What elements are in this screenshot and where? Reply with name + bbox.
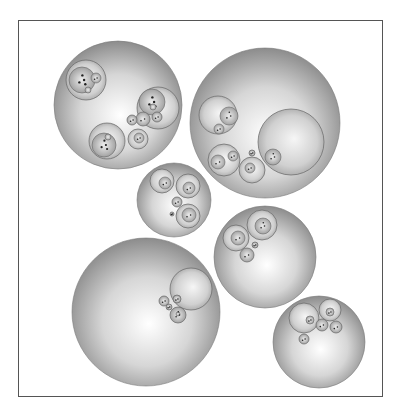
leaf-node <box>178 311 180 313</box>
leaf-node <box>175 203 177 205</box>
subcluster-circle <box>172 197 182 207</box>
leaf-node <box>219 128 221 130</box>
leaf-node <box>310 319 312 321</box>
subcluster <box>289 303 319 333</box>
leaf-node <box>167 307 169 309</box>
subcluster <box>152 112 162 122</box>
node-circle <box>228 151 238 161</box>
leaf-node <box>101 146 103 148</box>
subcluster <box>330 321 342 333</box>
subcluster <box>258 109 324 175</box>
leaf-node <box>230 115 232 117</box>
node-circle <box>265 149 281 165</box>
leaf-node <box>81 74 83 76</box>
leaf-node <box>330 311 332 313</box>
leaf-node <box>229 112 231 114</box>
leaf-node <box>248 254 250 256</box>
leaf-node <box>139 137 141 139</box>
leaf-node <box>217 130 219 132</box>
leaf-node <box>177 201 179 203</box>
subcluster-circle <box>316 319 328 331</box>
leaf-node <box>239 237 241 239</box>
node-circle <box>183 182 195 194</box>
cluster-middle-right <box>214 206 316 308</box>
node-circle <box>182 208 196 222</box>
cluster-top-left <box>54 41 182 169</box>
node-circle <box>214 124 224 134</box>
leaf-node <box>235 239 237 241</box>
leaf-node <box>162 302 164 304</box>
leaf-node <box>105 144 107 146</box>
leaf-node <box>175 299 177 301</box>
leaf-node <box>190 187 192 189</box>
leaf-node <box>169 306 171 308</box>
leaf-node <box>175 316 177 318</box>
subcluster <box>239 157 265 183</box>
leaf-node <box>94 79 96 81</box>
subcluster <box>170 268 212 310</box>
leaf-node <box>250 167 252 169</box>
leaf-node <box>179 314 181 316</box>
leaf-node <box>302 340 304 342</box>
cluster-bottom-right <box>273 296 365 388</box>
node-circle <box>150 104 156 110</box>
subcluster-circle <box>330 321 342 333</box>
leaf-node <box>233 155 235 157</box>
subcluster <box>299 334 309 344</box>
subcluster <box>170 212 174 216</box>
leaf-node <box>219 161 221 163</box>
subcluster <box>223 225 249 251</box>
leaf-node <box>151 96 153 98</box>
leaf-node <box>96 77 98 79</box>
leaf-node <box>273 153 275 155</box>
node-circle <box>255 218 271 234</box>
leaf-node <box>304 338 306 340</box>
subcluster-circle <box>173 295 181 303</box>
leaf-node <box>166 182 168 184</box>
leaf-node <box>323 324 325 326</box>
leaf-node <box>163 184 165 186</box>
subcluster <box>247 210 277 240</box>
subcluster-circle <box>258 109 324 175</box>
leaf-node <box>252 152 254 154</box>
leaf-node <box>137 139 139 141</box>
leaf-node <box>244 256 246 258</box>
subcluster-circle <box>127 115 137 125</box>
leaf-node <box>186 216 188 218</box>
subcluster <box>316 319 328 331</box>
subcluster-circle <box>299 334 309 344</box>
node-circle <box>231 231 245 245</box>
leaf-node <box>308 320 310 322</box>
cluster-top-right <box>190 48 340 198</box>
subcluster-circle <box>289 303 319 333</box>
leaf-node <box>155 118 157 120</box>
node-circle <box>92 133 116 157</box>
leaf-node <box>103 140 105 142</box>
subcluster <box>150 169 174 193</box>
leaf-node <box>153 101 155 103</box>
subcluster <box>136 112 150 126</box>
subcluster <box>89 123 125 159</box>
cluster-middle-left <box>137 163 211 237</box>
leaf-node <box>231 157 233 159</box>
leaf-node <box>140 120 142 122</box>
node-circle <box>306 316 314 324</box>
leaf-node <box>106 148 108 150</box>
node-circle <box>85 87 91 93</box>
leaf-node <box>270 158 272 160</box>
leaf-node <box>130 121 132 123</box>
subcluster-circle <box>136 112 150 126</box>
subcluster <box>249 150 255 156</box>
node-circle <box>245 163 255 173</box>
subcluster <box>176 204 200 228</box>
subcluster <box>319 299 341 321</box>
leaf-node <box>190 214 192 216</box>
subcluster <box>170 307 186 323</box>
cluster-bottom-left <box>72 238 220 386</box>
cluster-circle <box>72 238 220 386</box>
subcluster <box>172 197 182 207</box>
leaf-node <box>78 81 80 83</box>
leaf-node <box>84 83 86 85</box>
subcluster <box>240 248 254 262</box>
leaf-node <box>132 119 134 121</box>
